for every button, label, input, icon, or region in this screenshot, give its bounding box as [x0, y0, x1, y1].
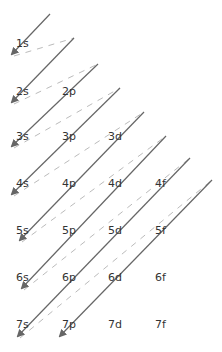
filling-order-arrows: [12, 14, 212, 336]
orbital-label-7p: 7p: [62, 319, 76, 331]
orbital-label-4p: 4p: [62, 178, 76, 190]
orbital-label-6p: 6p: [62, 272, 76, 284]
orbital-label-4s: 4s: [16, 178, 29, 190]
diagonal-arrow-5: [20, 112, 144, 240]
orbital-label-7f: 7f: [155, 319, 166, 331]
aufbau-diagram: [0, 0, 222, 352]
orbital-label-7d: 7d: [108, 319, 122, 331]
orbital-label-4d: 4d: [108, 178, 122, 190]
orbital-label-5d: 5d: [108, 225, 122, 237]
orbital-label-2s: 2s: [16, 86, 29, 98]
orbital-label-6d: 6d: [108, 272, 122, 284]
orbital-label-6s: 6s: [16, 272, 29, 284]
orbital-label-6f: 6f: [155, 272, 166, 284]
orbital-label-5p: 5p: [62, 225, 76, 237]
orbital-label-3p: 3p: [62, 131, 76, 143]
orbital-label-2p: 2p: [62, 86, 76, 98]
orbital-label-5f: 5f: [155, 225, 166, 237]
diagonal-arrow-6: [22, 136, 166, 288]
orbital-label-7s: 7s: [16, 319, 29, 331]
dashed-connector-5: [22, 136, 166, 242]
orbital-label-3s: 3s: [16, 131, 29, 143]
orbital-label-1s: 1s: [16, 38, 29, 50]
orbital-label-3d: 3d: [108, 131, 122, 143]
dashed-connector-4: [14, 112, 144, 196]
diagonal-arrow-8: [60, 180, 212, 336]
orbital-label-5s: 5s: [16, 225, 29, 237]
orbital-label-4f: 4f: [155, 178, 166, 190]
dashed-connector-2: [14, 64, 98, 104]
